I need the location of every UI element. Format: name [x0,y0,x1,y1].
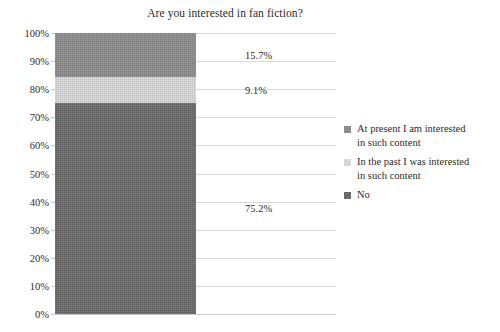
y-axis-label: 50% [3,168,49,179]
stacked-bar[interactable] [55,33,196,314]
chart-title: Are you interested in fan fiction? [0,7,450,19]
legend-item-in-the-past[interactable]: In the past I was interested in such con… [344,155,496,182]
legend-swatch-icon [344,126,351,133]
chart-container: Are you interested in fan fiction? 0%10%… [0,0,500,332]
legend-item-label: At present I am interested in such conte… [357,122,465,149]
y-axis-label: 10% [3,280,49,291]
data-label: 75.2% [245,203,272,214]
gridline [55,314,336,315]
bar-segment-in-the-past[interactable] [55,77,196,103]
legend-label-line1: At present I am interested [357,123,465,134]
chart-legend: At present I am interested in such conte… [344,122,496,208]
bar-segment-at-present[interactable] [55,33,196,77]
y-axis-label: 90% [3,56,49,67]
y-axis-label: 60% [3,140,49,151]
data-label: 9.1% [245,84,267,95]
legend-label-line2: in such content [357,170,421,181]
plot-area: 0%10%20%30%40%50%60%70%80%90%100% 15.7%9… [55,33,336,314]
legend-label-line2: in such content [357,137,421,148]
data-label: 15.7% [245,50,272,61]
y-axis-label: 40% [3,196,49,207]
bar-segment-no[interactable] [55,103,196,314]
legend-swatch-icon [344,159,351,166]
legend-item-label: In the past I was interested in such con… [357,155,469,182]
legend-label-line1: No [357,189,370,200]
legend-item-label: No [357,188,370,202]
y-axis-label: 20% [3,252,49,263]
y-axis-label: 100% [3,28,49,39]
legend-item-no[interactable]: No [344,188,496,202]
y-axis-label: 0% [3,309,49,320]
y-axis-label: 70% [3,112,49,123]
y-axis-label: 80% [3,84,49,95]
axis-tick [51,314,55,315]
legend-swatch-icon [344,192,351,199]
y-axis-label: 30% [3,224,49,235]
legend-label-line1: In the past I was interested [357,156,469,167]
legend-item-at-present[interactable]: At present I am interested in such conte… [344,122,496,149]
